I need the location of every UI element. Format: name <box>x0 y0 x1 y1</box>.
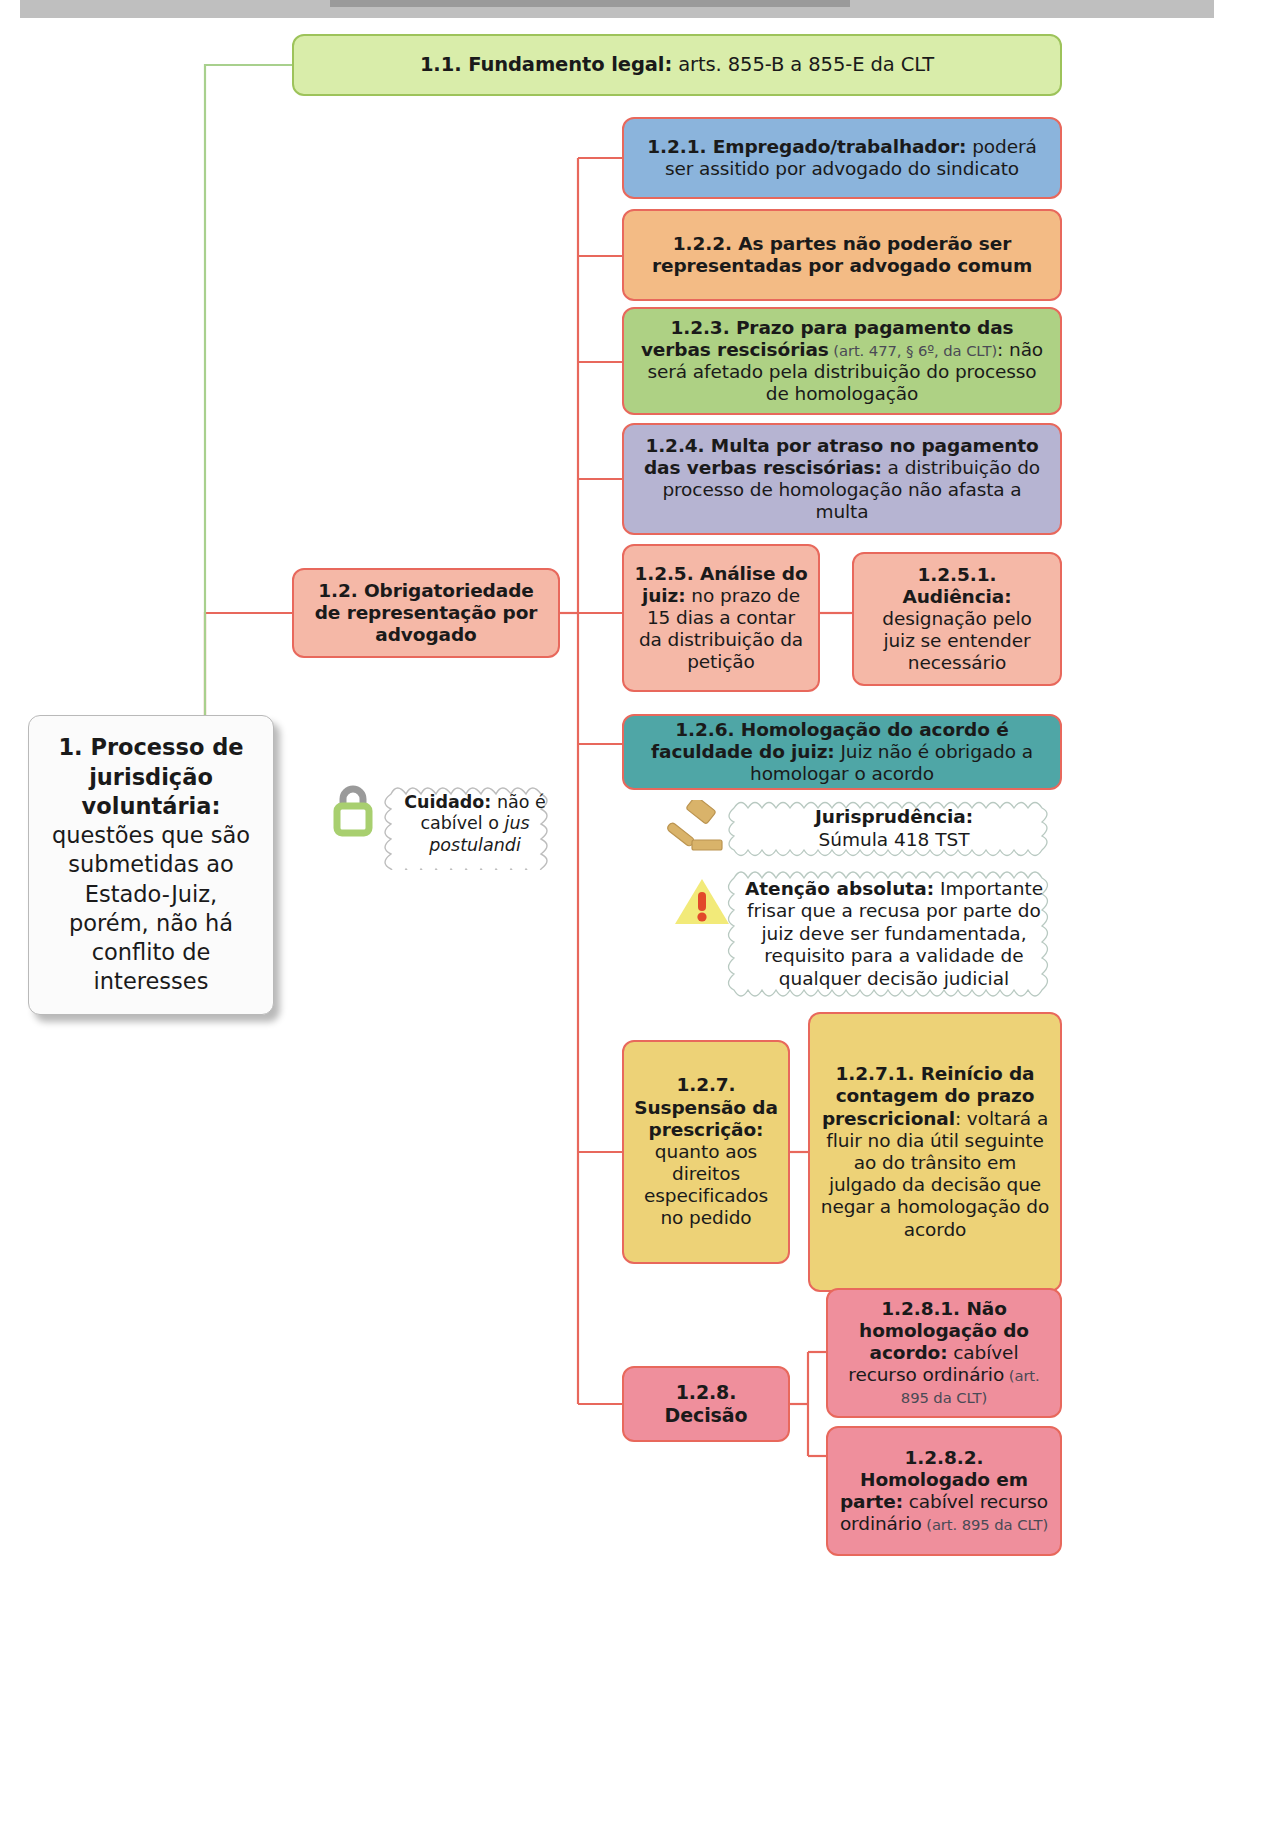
node-1-1[interactable]: 1.1. Fundamento legal: arts. 855-B a 855… <box>292 34 1062 96</box>
node-1-2-2[interactable]: 1.2.2. As partes não poderão ser represe… <box>622 209 1062 301</box>
node-1-2-3-text: 1.2.3. Prazo para pagamento das verbas r… <box>634 317 1050 406</box>
node-1-2-7[interactable]: 1.2.7. Suspensão da prescrição: quanto a… <box>622 1040 790 1264</box>
node-1-2-8-2[interactable]: 1.2.8.2. Homologado em parte: cabível re… <box>826 1426 1062 1556</box>
node-1-2-3[interactable]: 1.2.3. Prazo para pagamento das verbas r… <box>622 307 1062 415</box>
node-1-2-8-text: 1.2.8. Decisão <box>634 1381 778 1427</box>
node-1-2-2-bold: 1.2.2. As partes não poderão ser represe… <box>652 233 1032 276</box>
node-1-2-6[interactable]: 1.2.6. Homologação do acordo é faculdade… <box>622 714 1062 790</box>
mindmap-canvas: 1. Processo de jurisdição voluntária: qu… <box>0 0 1264 1827</box>
node-1-1-text: 1.1. Fundamento legal: arts. 855-B a 855… <box>304 53 1050 76</box>
node-1-2-1[interactable]: 1.2.1. Empregado/trabalhador: poderá ser… <box>622 117 1062 199</box>
node-1-2-8-1-text: 1.2.8.1. Não homologação do acordo: cabí… <box>838 1298 1050 1409</box>
node-1-2-4[interactable]: 1.2.4. Multa por atraso no pagamento das… <box>622 423 1062 535</box>
node-1-1-bold: 1.1. Fundamento legal: <box>420 53 672 76</box>
node-1-2-8[interactable]: 1.2.8. Decisão <box>622 1366 790 1442</box>
node-1-2-8-bold: 1.2.8. Decisão <box>665 1381 748 1426</box>
node-1-2-4-text: 1.2.4. Multa por atraso no pagamento das… <box>634 435 1050 524</box>
root-node-body: questões que são submetidas ao Estado-Ju… <box>52 822 250 994</box>
node-1-2-2-text: 1.2.2. As partes não poderão ser represe… <box>634 233 1050 277</box>
node-1-2-7-bold: 1.2.7. Suspensão da prescrição: <box>634 1074 778 1139</box>
callout-atencao-bold: Atenção absoluta: <box>745 878 934 899</box>
callout-jurisprudencia[interactable]: Jurisprudência: Súmula 418 TST <box>726 798 1062 860</box>
node-1-2[interactable]: 1.2. Obrigatoriedade de representação po… <box>292 568 560 658</box>
root-node-title: 1. Processo de jurisdição voluntária: <box>58 734 243 819</box>
node-1-2-5-1[interactable]: 1.2.5.1. Audiência: designação pelo juiz… <box>852 552 1062 686</box>
node-1-2-5[interactable]: 1.2.5. Análise do juiz: no prazo de 15 d… <box>622 544 820 692</box>
node-1-2-1-text: 1.2.1. Empregado/trabalhador: poderá ser… <box>634 136 1050 180</box>
node-1-2-8-2-ref: (art. 895 da CLT) <box>922 1516 1049 1533</box>
node-1-2-5-1-text: 1.2.5.1. Audiência: designação pelo juiz… <box>864 564 1050 675</box>
node-1-2-text: 1.2. Obrigatoriedade de representação po… <box>304 580 548 647</box>
callout-jurisprudencia-rest: Súmula 418 TST <box>818 829 969 850</box>
node-1-2-5-1-rest: designação pelo juiz se entender necessá… <box>882 608 1032 673</box>
callout-jurisprudencia-text: Jurisprudência: Súmula 418 TST <box>740 806 1048 851</box>
node-1-2-8-2-text: 1.2.8.2. Homologado em parte: cabível re… <box>838 1447 1050 1536</box>
node-1-2-3-ref: (art. 477, § 6º, da CLT) <box>829 342 997 359</box>
node-1-1-rest: arts. 855-B a 855-E da CLT <box>672 53 934 76</box>
callout-atencao-absoluta[interactable]: Atenção absoluta: Importante frisar que … <box>726 866 1062 1002</box>
node-1-2-7-rest: quanto aos direitos especificados no ped… <box>644 1141 768 1229</box>
callout-cuidado-text: Cuidado: não é cabível o jus postulandi <box>396 792 554 856</box>
node-1-2-1-bold: 1.2.1. Empregado/trabalhador: <box>647 136 966 157</box>
gavel-icon <box>664 800 726 862</box>
lock-icon <box>330 782 376 844</box>
root-node[interactable]: 1. Processo de jurisdição voluntária: qu… <box>28 715 274 1015</box>
warning-triangle-icon <box>672 876 732 932</box>
callout-atencao-text: Atenção absoluta: Importante frisar que … <box>740 878 1048 991</box>
node-1-2-7-1-text: 1.2.7.1. Reinício da contagem do prazo p… <box>820 1063 1050 1241</box>
root-node-text: 1. Processo de jurisdição voluntária: qu… <box>43 733 259 996</box>
node-1-2-7-text: 1.2.7. Suspensão da prescrição: quanto a… <box>634 1074 778 1229</box>
callout-jurisprudencia-bold: Jurisprudência: <box>815 806 973 827</box>
node-1-2-5-1-bold: 1.2.5.1. Audiência: <box>903 564 1012 607</box>
node-1-2-8-1[interactable]: 1.2.8.1. Não homologação do acordo: cabí… <box>826 1288 1062 1418</box>
node-1-2-6-text: 1.2.6. Homologação do acordo é faculdade… <box>634 719 1050 786</box>
node-1-2-5-text: 1.2.5. Análise do juiz: no prazo de 15 d… <box>634 563 808 674</box>
node-1-2-7-1[interactable]: 1.2.7.1. Reinício da contagem do prazo p… <box>808 1012 1062 1292</box>
callout-cuidado[interactable]: Cuidado: não é cabível o jus postulandi <box>382 778 568 870</box>
callout-cuidado-bold: Cuidado: <box>404 792 491 812</box>
node-1-2-bold: 1.2. Obrigatoriedade de representação po… <box>315 580 538 645</box>
